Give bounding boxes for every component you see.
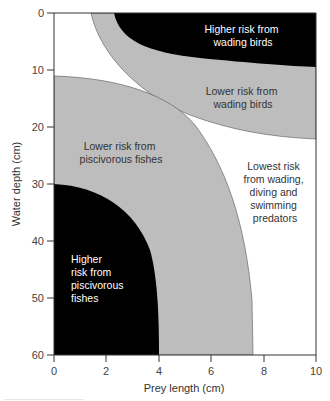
x-tick-label: 6: [208, 365, 214, 377]
y-tick-label: 30: [32, 178, 44, 190]
y-ticks: 0 10 20 30 40 50 60: [32, 7, 54, 361]
y-axis-label: Water depth (cm): [10, 142, 22, 227]
x-axis-label: Prey length (cm): [144, 382, 225, 394]
risk-chart: 0 10 20 30 40 50 60 0 2 4 6 8 10 Prey le…: [0, 0, 330, 401]
y-tick-label: 50: [32, 292, 44, 304]
x-tick-label: 2: [103, 365, 109, 377]
lower-risk-wading-birds-label: Lower risk from wading birds: [206, 85, 281, 110]
x-tick-label: 10: [310, 365, 322, 377]
x-tick-label: 4: [156, 365, 162, 377]
x-tick-label: 0: [51, 365, 57, 377]
y-tick-label: 0: [38, 7, 44, 19]
higher-risk-wading-birds-label: Higher risk from wading birds: [204, 23, 281, 48]
lowest-risk-label: Lowest risk from wading, diving and swim…: [243, 160, 306, 224]
footer-divider: [4, 399, 84, 400]
y-tick-label: 40: [32, 235, 44, 247]
y-tick-label: 20: [32, 121, 44, 133]
x-ticks: 0 2 4 6 8 10: [51, 355, 322, 377]
y-tick-label: 60: [32, 349, 44, 361]
x-tick-label: 8: [261, 365, 267, 377]
y-tick-label: 10: [32, 64, 44, 76]
lower-risk-fishes-label: Lower risk from piscivorous fishes: [80, 140, 163, 165]
